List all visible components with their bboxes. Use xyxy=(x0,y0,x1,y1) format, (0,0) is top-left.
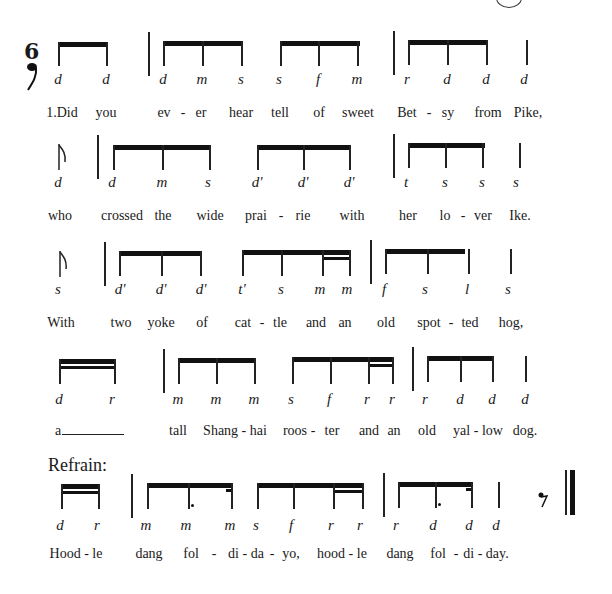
solfege: s xyxy=(253,518,259,533)
solfege: s xyxy=(55,282,61,297)
lyric: crossed xyxy=(101,209,143,223)
solfege: d xyxy=(55,392,63,407)
lyric: rie xyxy=(296,209,311,223)
solfege: d' xyxy=(298,175,309,190)
eighth-note-icon xyxy=(25,62,39,96)
lyric: of xyxy=(313,106,325,120)
solfege: d' xyxy=(196,282,207,297)
dot xyxy=(438,503,441,506)
solfege: s xyxy=(442,175,448,190)
lyric: yoke xyxy=(147,316,174,330)
solfege: s xyxy=(276,72,282,87)
solfege: m xyxy=(181,518,192,533)
solfege: s xyxy=(238,72,244,87)
lyric: - xyxy=(181,106,186,120)
page-mark-circle xyxy=(496,0,522,8)
lyric: - xyxy=(427,106,432,120)
solfege: r xyxy=(357,518,363,533)
lyric: dang xyxy=(386,547,413,561)
solfege: f xyxy=(382,282,386,297)
final-barline-thin xyxy=(565,470,567,515)
lyric: a______a xyxy=(55,424,124,438)
lyric: and xyxy=(359,424,379,438)
solfege: s xyxy=(479,175,485,190)
solfege: d xyxy=(108,175,116,190)
eighth-note-icon xyxy=(57,144,69,176)
lyric: spot xyxy=(417,316,440,330)
solfege: r xyxy=(393,518,399,533)
lyric: di - day. xyxy=(463,547,508,561)
lyric: of xyxy=(196,316,208,330)
solfege: d xyxy=(520,72,528,87)
lyric: the xyxy=(154,209,171,223)
lyric: old xyxy=(418,424,436,438)
refrain-label: Refrain: xyxy=(48,456,107,474)
lyric: lo xyxy=(440,209,451,223)
lyric: yal - low xyxy=(453,424,503,438)
solfege: r xyxy=(389,392,395,407)
lyric: tle xyxy=(273,316,287,330)
lyric: cat xyxy=(235,316,251,330)
lyric: di - da xyxy=(228,547,264,561)
lyric: with xyxy=(340,209,365,223)
lyric: - xyxy=(311,424,316,438)
solfege: m xyxy=(249,392,260,407)
lyric: her xyxy=(399,209,417,223)
lyric: ver xyxy=(474,209,492,223)
solfege: s xyxy=(513,175,519,190)
lyric: tall xyxy=(169,424,187,438)
lyric: an xyxy=(338,316,351,330)
lyric: fol xyxy=(430,547,446,561)
solfege: r xyxy=(404,72,410,87)
solfege: d' xyxy=(344,175,355,190)
solfege: r xyxy=(422,392,428,407)
solfege: d xyxy=(56,518,64,533)
lyric: an xyxy=(387,424,400,438)
solfege: r xyxy=(94,518,100,533)
extender-line xyxy=(62,434,124,435)
solfege: s xyxy=(205,175,211,190)
solfege: m xyxy=(197,72,208,87)
solfege: d xyxy=(456,392,464,407)
solfege: d xyxy=(482,72,490,87)
lyric: roos xyxy=(283,424,307,438)
solfege: d xyxy=(159,72,167,87)
lyric: - xyxy=(270,547,275,561)
lyric: - xyxy=(279,209,284,223)
solfege: d xyxy=(521,392,529,407)
lyric: - xyxy=(461,209,466,223)
solfege: s xyxy=(422,282,428,297)
lyric: Shang - hai xyxy=(203,424,267,438)
lyric: tell xyxy=(271,106,289,120)
lyric: Bet xyxy=(397,106,416,120)
solfege: l xyxy=(465,282,469,297)
solfege: d xyxy=(465,518,473,533)
solfege: m xyxy=(225,518,236,533)
solfege: s xyxy=(278,282,284,297)
solfege: r xyxy=(364,392,370,407)
solfege: m xyxy=(342,282,353,297)
solfege: d xyxy=(492,518,500,533)
lyric: - xyxy=(212,547,217,561)
solfege: t' xyxy=(238,282,245,297)
solfege: m xyxy=(141,518,152,533)
lyric: old xyxy=(377,316,395,330)
eighth-note-icon xyxy=(58,251,70,283)
lyric: er xyxy=(196,106,207,120)
lyric: prai xyxy=(245,209,267,223)
final-barline-thick xyxy=(570,470,575,515)
lyric: With xyxy=(47,316,74,330)
solfege: m xyxy=(157,175,168,190)
solfege: d' xyxy=(115,282,126,297)
solfege: d xyxy=(488,392,496,407)
lyric: 1.Did xyxy=(46,106,78,120)
lyric: ev xyxy=(157,106,170,120)
lyric: wide xyxy=(196,209,223,223)
lyric: dog. xyxy=(513,424,538,438)
lyric: hood - le xyxy=(317,547,367,561)
solfege: s xyxy=(505,282,511,297)
solfege: s xyxy=(288,392,294,407)
lyric: Ike. xyxy=(509,209,530,223)
lyric: you xyxy=(96,106,117,120)
lyric: Pike, xyxy=(514,106,542,120)
